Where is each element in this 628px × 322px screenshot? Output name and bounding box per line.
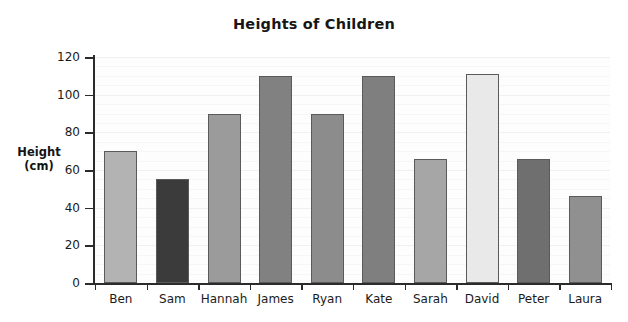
bar-hannah [208,114,241,284]
bar-sarah [414,159,447,283]
gridline [94,151,610,152]
x-axis-tick [95,284,96,290]
bar-ryan [311,114,344,284]
y-axis-tick [85,208,93,210]
gridline [94,76,610,77]
gridline [94,104,610,105]
x-axis-line [85,283,612,285]
bar-laura [569,196,602,283]
x-axis-label-laura: Laura [553,292,617,306]
y-axis-tick-label-text: 120 [46,50,80,64]
y-axis-tick-label-text: 80 [46,125,80,139]
gridline [94,66,610,67]
y-axis-tick-label: 0 [44,276,80,290]
bar-david [466,74,499,283]
x-axis-tick [508,284,509,290]
y-axis-tick [85,245,93,247]
gridline [94,132,610,133]
x-axis-tick [405,284,406,290]
y-axis-tick-label: 100 [44,88,80,102]
y-axis-tick-label: 80 [44,125,80,139]
bar-chart: Heights of Children Height (cm) 02040608… [0,0,628,322]
y-axis-tick [85,57,93,59]
gridline [94,85,610,86]
y-axis-tick-label-text: 40 [46,201,80,215]
x-axis-tick [559,284,560,290]
bar-sam [156,179,189,283]
y-axis-tick-label: 60 [44,163,80,177]
gridline [94,114,610,115]
y-axis-tick-label: 120 [44,50,80,64]
y-axis-line [93,55,95,284]
x-axis-tick [353,284,354,290]
gridline [94,142,610,143]
y-axis-tick [85,132,93,134]
y-axis-tick-label: 20 [44,238,80,252]
y-axis-tick-label: 40 [44,201,80,215]
x-axis-tick [198,284,199,290]
y-axis-tick-label-text: 100 [46,88,80,102]
y-axis-tick [85,95,93,97]
x-axis-tick [301,284,302,290]
y-axis-tick-label-text: 60 [46,163,80,177]
x-axis-tick [147,284,148,290]
chart-title: Heights of Children [0,16,628,32]
bar-james [259,76,292,283]
bar-ben [104,151,137,283]
gridline [94,123,610,124]
gridline [94,95,610,96]
x-axis-tick [611,284,612,290]
y-axis-tick [85,170,93,172]
y-axis-tick-label-text: 0 [46,276,80,290]
x-axis-tick [250,284,251,290]
gridline [94,57,610,58]
y-axis-title-line-1: Height [6,145,72,159]
y-axis-tick [85,283,93,285]
y-axis-tick-label-text: 20 [46,238,80,252]
x-axis-tick [456,284,457,290]
bar-peter [517,159,550,283]
bar-kate [362,76,395,283]
